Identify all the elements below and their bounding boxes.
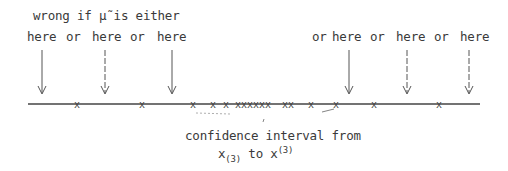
x-upper-superscript: (3) xyxy=(278,145,294,155)
x-upper: x xyxy=(270,146,277,161)
x-lower-subscript: (3) xyxy=(225,154,241,164)
x-mark: x xyxy=(74,99,80,110)
x-mark: x xyxy=(139,99,145,110)
down-arrow-icon xyxy=(101,50,109,94)
caption-pointer xyxy=(263,119,264,122)
x-mark: x xyxy=(210,99,216,110)
x-mark: x xyxy=(371,99,377,110)
down-arrow-icon xyxy=(345,50,353,94)
caption-line-1: confidence interval from xyxy=(185,128,361,143)
x-mark: x xyxy=(288,99,294,110)
x-mark: x xyxy=(333,99,339,110)
x-mark: x xyxy=(308,99,314,110)
caption-line-2: x(3) to x(3) xyxy=(218,145,293,164)
down-arrow-icon xyxy=(168,50,176,94)
x-mark: x xyxy=(190,99,196,110)
down-arrow-icon xyxy=(465,50,473,94)
x-mark: x xyxy=(223,99,229,110)
x-mark: x xyxy=(265,99,271,110)
interval-upper-pointer xyxy=(322,109,334,112)
interval-lower-pointer xyxy=(196,113,230,114)
down-arrow-icon xyxy=(38,50,46,94)
to-text: to xyxy=(248,146,263,161)
x-mark: x xyxy=(436,99,442,110)
down-arrow-icon xyxy=(403,50,411,94)
